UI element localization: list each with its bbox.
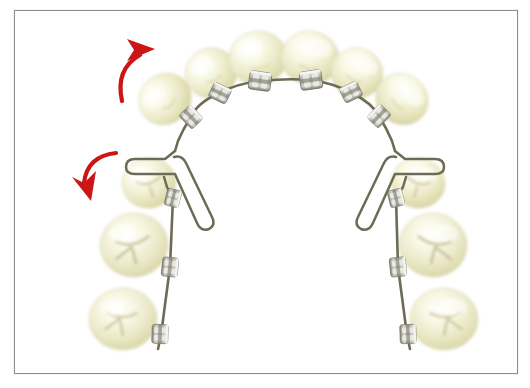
- brackets: [152, 69, 417, 343]
- bracket-upper-left-central: [248, 70, 272, 91]
- teeth-posterior-right: [386, 153, 479, 352]
- figure-root: [0, 0, 530, 388]
- teeth-anterior: [128, 27, 438, 135]
- bracket-right-first-molar: [400, 324, 417, 344]
- illustration-canvas: [15, 11, 517, 373]
- bracket-upper-right-central: [299, 69, 323, 90]
- tooth-right-first-molar: [408, 286, 479, 351]
- bracket-right-second-premolar: [389, 257, 407, 278]
- orthodontic-arch-illustration: [15, 11, 517, 373]
- tooth-left-second-premolar: [97, 210, 171, 281]
- bracket-left-second-premolar: [161, 257, 179, 278]
- lower-movement-arrow: [72, 153, 116, 201]
- tooth-right-second-premolar: [396, 210, 470, 281]
- bracket-left-first-molar: [152, 324, 169, 344]
- tooth-left-first-molar: [87, 286, 158, 351]
